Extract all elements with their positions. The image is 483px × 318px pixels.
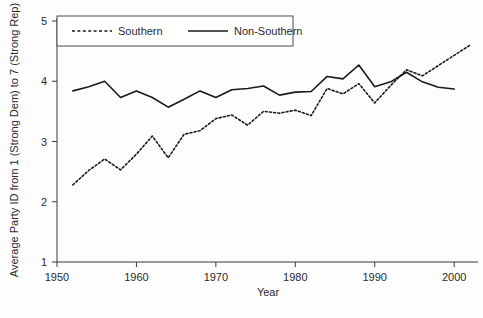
x-tick-label-1960: 1960 [124,271,148,283]
plot-background [0,0,483,318]
y-tick-label-4: 4 [41,75,47,87]
y-tick-label-1: 1 [41,256,47,268]
x-tick-label-1980: 1980 [283,271,307,283]
x-tick-label-2000: 2000 [442,271,466,283]
legend-label-non-southern: Non-Southern [234,25,303,37]
chart-page: 12345 Average Party ID from 1 (Strong De… [0,0,483,318]
legend-label-southern: Southern [118,25,163,37]
chart-legend: Southern Non-Southern [57,16,303,46]
y-tick-label-3: 3 [41,136,47,148]
y-tick-label-5: 5 [41,15,47,27]
x-axis-title: Year [257,286,280,298]
y-tick-label-2: 2 [41,196,47,208]
x-tick-label-1990: 1990 [362,271,386,283]
y-axis-title: Average Party ID from 1 (Strong Dem) to … [8,3,20,277]
x-tick-label-1970: 1970 [204,271,228,283]
party-id-line-chart: 12345 Average Party ID from 1 (Strong De… [0,0,483,318]
x-tick-label-1950: 1950 [45,271,69,283]
